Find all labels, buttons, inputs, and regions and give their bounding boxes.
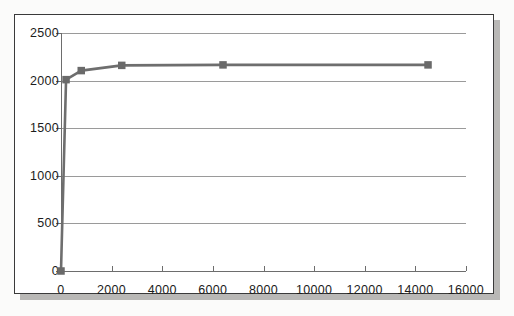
data-point-marker	[57, 267, 65, 275]
chart-frame: 05001000150020002500 0200040006000800010…	[14, 14, 494, 294]
data-point-marker	[219, 61, 227, 69]
data-point-marker	[118, 62, 126, 69]
series-line	[61, 65, 428, 271]
data-point-marker	[424, 61, 432, 69]
data-point-marker	[78, 67, 86, 75]
data-point-marker	[62, 76, 69, 84]
data-series-layer	[15, 15, 495, 295]
scanned-page: 05001000150020002500 0200040006000800010…	[0, 0, 514, 316]
plot-area: 05001000150020002500 0200040006000800010…	[15, 15, 493, 293]
